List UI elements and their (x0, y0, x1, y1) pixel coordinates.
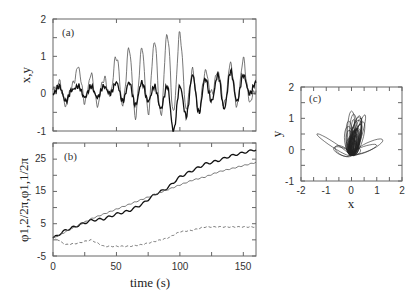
a-ylabel: x,y (18, 66, 33, 83)
panel-a: (a) 2 1 0 -1 x,y (18, 14, 256, 137)
panel-b-frame (53, 143, 256, 256)
c-ylabel: y (269, 130, 284, 137)
c-xlabel: x (348, 196, 355, 211)
panel-a-frame (53, 19, 256, 131)
series-phi12-line (53, 150, 256, 238)
panel-c: (c) 2 1 0 -1 -2 -1 0 1 2 x y (269, 82, 405, 211)
b-ylabel: φ1,2/2π,φ1,1/2π (16, 158, 31, 243)
c-xtick-0: 0 (348, 185, 354, 196)
a-ytick-2: 2 (40, 14, 46, 25)
b-ytick-25: 25 (35, 153, 47, 164)
figure: (a) 2 1 0 -1 x,y (b) 25 15 5 -5 0 50 100… (0, 0, 418, 297)
c-ytick-2: 2 (288, 82, 294, 93)
c-xtick-2: 2 (399, 185, 405, 196)
series-difference-dashed-line (53, 227, 256, 247)
b-ytick-5: 5 (40, 218, 46, 229)
panel-b-label: (b) (64, 150, 77, 163)
b-ytick-15: 15 (35, 185, 47, 196)
a-ytick-1: 1 (40, 51, 46, 62)
b-xtick-50: 50 (110, 261, 122, 272)
c-xtick-1: 1 (374, 185, 380, 196)
c-ytick-0: 0 (288, 145, 294, 156)
c-ytick-1: 1 (288, 113, 294, 124)
panel-c-label: (c) (309, 92, 322, 105)
b-xtick-150: 150 (235, 261, 252, 272)
c-xtick-neg2: -2 (297, 185, 306, 196)
b-xtick-0: 0 (50, 261, 56, 272)
phase-trajectory (317, 111, 383, 157)
panel-b: (b) 25 15 5 -5 0 50 100 150 time (s) φ1,… (16, 143, 256, 290)
c-ytick-neg1: -1 (285, 176, 294, 187)
b-xtick-100: 100 (172, 261, 189, 272)
b-xlabel: time (s) (130, 275, 170, 290)
a-ytick-0: 0 (40, 88, 46, 99)
a-ytick-neg1: -1 (37, 126, 46, 137)
b-ytick-neg5: -5 (37, 251, 46, 262)
panel-a-label: (a) (62, 26, 75, 39)
c-xtick-neg1: -1 (322, 185, 331, 196)
